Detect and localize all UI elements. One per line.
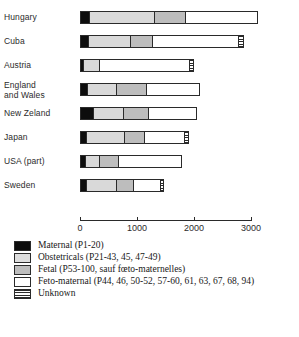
stacked-bar (80, 155, 182, 168)
bar-category-label: Japan (4, 133, 80, 143)
axis-tick (194, 217, 195, 221)
bar-segment-maternal (81, 12, 90, 23)
bar-segment-fetal (100, 156, 119, 167)
bar-segment-maternal (81, 84, 88, 95)
axis-tick-label: 3000 (241, 223, 261, 233)
bar-segment-fetal (155, 12, 186, 23)
bar-row: Japan (0, 128, 299, 152)
stacked-bar (80, 131, 189, 144)
bar-row: Hungary (0, 8, 299, 32)
legend-swatch-maternal-icon (14, 241, 31, 251)
legend-item-unknown: Unknown (0, 288, 299, 299)
bar-category-label: England and Wales (4, 81, 80, 100)
bar-segment-fetomaternal (134, 180, 160, 191)
bar-segment-fetomaternal (145, 132, 186, 143)
bar-segment-fetal (131, 36, 154, 47)
bar-segment-fetomaternal (149, 108, 196, 119)
bar-segment-obstetricals (89, 36, 130, 47)
plot-area: HungaryCubaAustriaEngland and WalesNew Z… (0, 8, 299, 213)
axis-tick-label: 2000 (184, 223, 204, 233)
stacked-bar (80, 83, 200, 96)
stacked-bar (80, 35, 244, 48)
bar-category-label: Hungary (4, 13, 80, 23)
stacked-bar (80, 107, 197, 120)
legend-label: Feto-maternal (P44, 46, 50-52, 57-60, 61… (38, 276, 254, 287)
bar-segment-fetomaternal (153, 36, 239, 47)
legend-swatch-fetomaternal-icon (14, 277, 31, 287)
chart-legend: Maternal (P1-20)Obstetricals (P21-43, 45… (0, 240, 299, 300)
bar-segment-obstetricals (90, 12, 155, 23)
legend-item-fetal: Fetal (P53-100, sauf fœto-maternelles) (0, 264, 299, 275)
bar-row: USA (part) (0, 152, 299, 176)
bar-segment-unknown (190, 60, 193, 71)
bar-segment-obstetricals (87, 180, 117, 191)
legend-label: Obstetricals (P21-43, 45, 47-49) (38, 252, 161, 263)
stacked-bar (80, 179, 164, 192)
stacked-bar-chart: HungaryCubaAustriaEngland and WalesNew Z… (0, 0, 299, 337)
bar-segment-obstetricals (86, 156, 100, 167)
bar-category-label: USA (part) (4, 157, 80, 167)
bar-segment-obstetricals (84, 60, 100, 71)
bar-segment-unknown (239, 36, 243, 47)
axis-tick-label: 0 (77, 223, 82, 233)
bar-segment-maternal (81, 36, 89, 47)
bar-segment-unknown (161, 180, 163, 191)
stacked-bar (80, 59, 194, 72)
bar-category-label: New Zeland (4, 109, 80, 119)
legend-label: Unknown (38, 288, 75, 299)
bar-segment-fetomaternal (119, 156, 181, 167)
legend-label: Fetal (P53-100, sauf fœto-maternelles) (38, 264, 185, 275)
stacked-bar (80, 11, 258, 24)
bar-segment-obstetricals (94, 108, 124, 119)
bar-row: Austria (0, 56, 299, 80)
bar-category-label: Sweden (4, 181, 80, 191)
axis-tick (80, 217, 81, 221)
bar-segment-obstetricals (87, 132, 125, 143)
bar-segment-fetal (117, 180, 134, 191)
bar-category-label: Cuba (4, 37, 80, 47)
legend-swatch-obstetricals-icon (14, 253, 31, 263)
bar-segment-maternal (81, 108, 94, 119)
axis-line (80, 220, 251, 221)
bar-category-label: Austria (4, 61, 80, 71)
axis-tick (137, 217, 138, 221)
bar-segment-fetal (125, 132, 144, 143)
legend-item-fetomaternal: Feto-maternal (P44, 46, 50-52, 57-60, 61… (0, 276, 299, 287)
bar-row: Sweden (0, 176, 299, 200)
bar-segment-unknown (185, 132, 188, 143)
bar-segment-fetomaternal (147, 84, 199, 95)
bar-segment-fetomaternal (100, 60, 190, 71)
legend-label: Maternal (P1-20) (38, 240, 104, 251)
legend-swatch-fetal-icon (14, 265, 31, 275)
bar-segment-fetomaternal (186, 12, 257, 23)
bar-row: Cuba (0, 32, 299, 56)
legend-item-obstetricals: Obstetricals (P21-43, 45, 47-49) (0, 252, 299, 263)
x-axis: 0100020003000 (0, 216, 299, 238)
axis-tick (251, 217, 252, 221)
bar-row: England and Wales (0, 80, 299, 104)
legend-item-maternal: Maternal (P1-20) (0, 240, 299, 251)
axis-tick-label: 1000 (127, 223, 147, 233)
bar-segment-obstetricals (88, 84, 118, 95)
bar-row: New Zeland (0, 104, 299, 128)
bar-segment-fetal (117, 84, 147, 95)
bar-segment-fetal (124, 108, 149, 119)
legend-swatch-unknown-icon (14, 289, 31, 299)
